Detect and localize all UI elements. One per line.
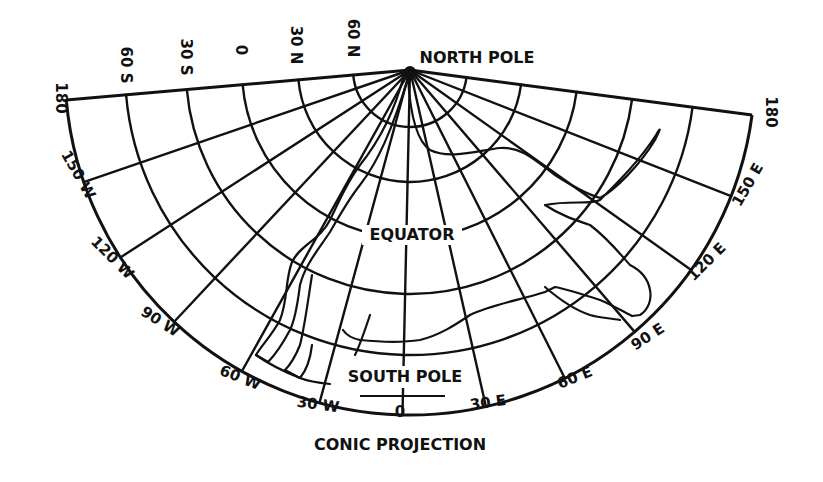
longitude-label-west: 150 W	[57, 147, 99, 202]
latitude-label: 0	[232, 45, 250, 55]
latitude-label: 30 N	[287, 26, 305, 65]
equator-label: EQUATOR	[369, 225, 454, 244]
longitude-label-west: 180	[52, 82, 70, 113]
south-pole-label: SOUTH POLE	[348, 367, 462, 386]
meridian-line	[410, 70, 731, 196]
map-title: CONIC PROJECTION	[314, 435, 486, 454]
longitude-label-west: 30 W	[296, 393, 341, 417]
latitude-label: 60 S	[117, 47, 135, 84]
south-tip-west	[355, 315, 370, 355]
longitude-label-east: 30 E	[469, 391, 507, 414]
north-pole-label: NORTH POLE	[420, 48, 535, 67]
longitude-label-west: 60 W	[217, 361, 264, 394]
latitude-label: 60 N	[344, 19, 362, 58]
meridian-line	[242, 70, 410, 371]
labels: 60 S30 S030 N60 N180150 W120 W90 W60 W30…	[52, 19, 780, 454]
longitude-label-0: 0	[395, 403, 405, 421]
longitude-label-east: 180	[762, 96, 780, 127]
longitude-label-east: 90 E	[628, 319, 668, 354]
latitude-label: 30 S	[177, 39, 195, 76]
longitude-label-west: 120 W	[87, 233, 138, 284]
longitude-label-east: 60 E	[555, 362, 595, 392]
conic-projection-map: 60 S30 S030 N60 N180150 W120 W90 W60 W30…	[0, 0, 823, 482]
